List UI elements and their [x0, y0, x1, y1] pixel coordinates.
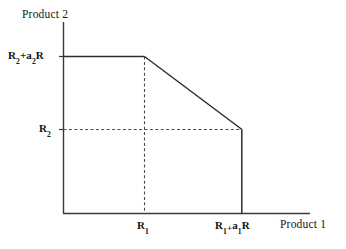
x-axis-title: Product 1 [280, 219, 326, 231]
y-tick-label-r2-plus-a2r: R2+a2R [8, 50, 44, 61]
x-tick-label-r1-plus-a1r: R1+a1R [215, 220, 250, 231]
y-tick-label-r2: R2 [39, 123, 51, 134]
figure-container: Product 2 Product 1 R2+a2R R2 R1 R1+a1R [0, 0, 346, 249]
frontier-segment-slope [145, 57, 243, 130]
ppf-chart-canvas [0, 0, 346, 249]
x-tick-label-r1: R1 [137, 220, 149, 231]
y-axis-title: Product 2 [22, 9, 68, 21]
